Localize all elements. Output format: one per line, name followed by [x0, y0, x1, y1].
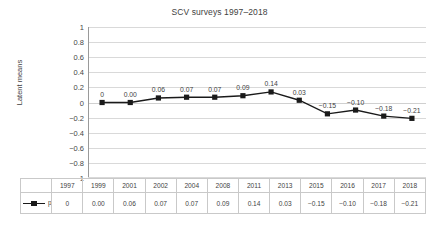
table-header-cell: 2011 [238, 179, 269, 193]
table-value-cell: 0.07 [145, 193, 176, 214]
data-point-marker [409, 116, 414, 121]
data-point-marker [240, 93, 245, 98]
table-value-cell: 0.09 [207, 193, 238, 214]
data-point-marker [128, 100, 133, 105]
table-header-cell: 2018 [394, 179, 425, 193]
table-header-cell: 2001 [114, 179, 145, 193]
table-header-cell: 2016 [332, 179, 363, 193]
table-header-cell: 2015 [301, 179, 332, 193]
data-point-label: 0.07 [208, 86, 221, 93]
y-axis-tick-label: −0.6 [69, 143, 84, 152]
table-value-cell: −0.18 [363, 193, 394, 214]
data-point-marker [99, 100, 104, 105]
y-axis-tick-label: −0.8 [69, 158, 84, 167]
legend-marker-icon [23, 199, 45, 207]
table-header-cell: 1999 [83, 179, 114, 193]
data-point-label: −0.21 [403, 107, 420, 114]
data-point-label: −0.18 [375, 105, 392, 112]
y-axis-tick-label: 0.4 [74, 68, 84, 77]
table-header-cell: 2013 [270, 179, 301, 193]
chart-title: SCV surveys 1997–2018 [0, 7, 439, 17]
table-header-cell: 2017 [363, 179, 394, 193]
y-axis-tick-label: 0.8 [74, 38, 84, 47]
series-polyline [102, 92, 412, 118]
table-value-cell: 0.14 [238, 193, 269, 214]
table-corner-cell [21, 179, 52, 193]
table-header-row: 1997199920012002200420082011201320152016… [21, 179, 426, 193]
data-point-label: −0.10 [347, 99, 364, 106]
data-point-label: 0 [100, 91, 104, 98]
legend-label: perceived ethnic threat [48, 199, 52, 207]
table-value-cell: 0.07 [176, 193, 207, 214]
y-axis-tick-label: 0 [80, 98, 84, 107]
data-point-label: −0.15 [319, 102, 336, 109]
table-value-cell: −0.10 [332, 193, 363, 214]
data-point-marker [212, 95, 217, 100]
table-header-cell: 2004 [176, 179, 207, 193]
y-axis-tick-label: 0.2 [74, 83, 84, 92]
data-point-marker [381, 113, 386, 118]
legend-cell: perceived ethnic threat [21, 193, 52, 214]
table-row: perceived ethnic threat 00.000.060.070.0… [21, 193, 426, 214]
table-value-cell: 0.00 [83, 193, 114, 214]
plot-area: 10.80.60.40.20−0.2−0.4−0.6−0.8−1 00.000.… [88, 27, 426, 178]
table-header-cell: 2008 [207, 179, 238, 193]
chart-container: SCV surveys 1997–2018 Latent means 10.80… [0, 0, 439, 227]
table-value-cell: −0.15 [301, 193, 332, 214]
data-point-marker [297, 98, 302, 103]
table-value-cell: 0.03 [270, 193, 301, 214]
data-point-label: 0.09 [236, 84, 249, 91]
table-value-cell: 0 [52, 193, 83, 214]
data-point-marker [156, 95, 161, 100]
data-point-label: 0.06 [152, 86, 165, 93]
data-table: 1997199920012002200420082011201320152016… [20, 178, 426, 214]
y-axis-tick-label: −0.4 [69, 128, 84, 137]
data-point-label: 0.07 [180, 86, 193, 93]
table-header-cell: 1997 [52, 179, 83, 193]
data-point-label: 0.14 [264, 80, 277, 87]
y-axis-tick-label: 1 [80, 23, 84, 32]
data-point-marker [184, 95, 189, 100]
y-axis-title: Latent means [15, 43, 24, 123]
data-point-marker [268, 89, 273, 94]
data-point-label: 0.03 [293, 89, 306, 96]
y-axis-tick-label: −0.2 [69, 113, 84, 122]
table-header-cell: 2002 [145, 179, 176, 193]
data-point-label: 0.00 [124, 91, 137, 98]
y-axis-tick-label: 0.6 [74, 53, 84, 62]
table-value-cell: 0.06 [114, 193, 145, 214]
series-line-perceived-ethnic-threat [88, 27, 426, 178]
table-value-cell: −0.21 [394, 193, 425, 214]
data-point-marker [353, 107, 358, 112]
data-point-marker [325, 111, 330, 116]
